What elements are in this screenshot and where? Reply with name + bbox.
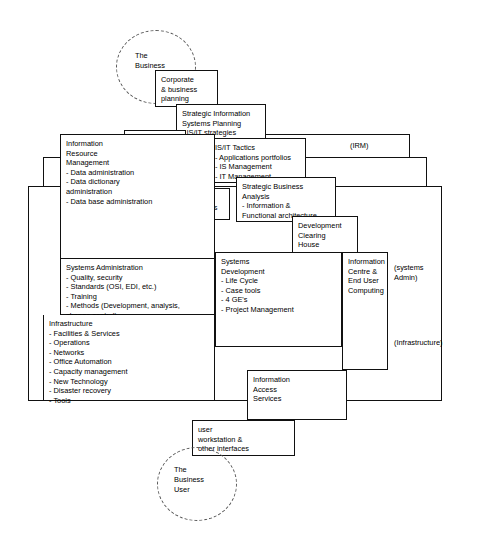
information-resource-management-box: Information Resource Management - Data a…: [60, 134, 215, 259]
the-business-user-label: The Business User: [174, 465, 234, 494]
development-clearing-house-box: Development Clearing House: [292, 216, 358, 254]
information-centre-box: Information Centre & End User Computing: [342, 252, 388, 370]
corporate-planning-box: Corporate & business planning: [155, 70, 218, 107]
diagram-canvas: (IRM) (systems Admin) (Infrastructure) T…: [0, 0, 492, 553]
the-business-user-ellipse: The Business User: [157, 447, 237, 521]
systems-administration-box: Systems Administration - Quality, securi…: [60, 259, 215, 315]
irm-annotation: (IRM): [350, 141, 410, 151]
the-business-label: The Business: [135, 51, 195, 71]
systems-development-box: Systems Development - Life Cycle - Case …: [215, 252, 342, 347]
systems-admin-annotation: (systems Admin): [394, 263, 454, 282]
infrastructure-box: Infrastructure - Facilities & Services -…: [43, 315, 215, 401]
information-access-services-box: Information Access Services: [247, 370, 347, 420]
infrastructure-annotation: (Infrastructure): [394, 338, 474, 348]
